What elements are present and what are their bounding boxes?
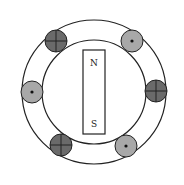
conductor-dot-icon [115,135,137,157]
south-pole-label: S [91,119,97,129]
conductor-cross-icon [45,30,67,52]
conductor-dot-icon [121,30,143,52]
conductor-cross-icon [145,80,167,102]
generator-diagram: N S [0,0,184,185]
conductor-cross-icon [50,134,72,156]
conductor-dot-icon [21,81,43,103]
north-pole-label: N [90,58,98,68]
